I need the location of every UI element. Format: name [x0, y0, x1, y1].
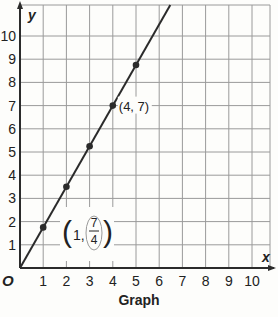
x-tick-label: 10 — [244, 273, 260, 289]
x-tick-label: 1 — [39, 273, 47, 289]
x-tick-label: 9 — [225, 273, 233, 289]
chart-title: Graph — [0, 292, 278, 308]
graph-plot: yxO1234567891012345678910 (4, 7)(1,74) — [0, 0, 278, 290]
y-tick-label: 7 — [8, 98, 16, 114]
axes — [17, 1, 276, 271]
x-axis-arrow-icon — [268, 265, 276, 271]
x-tick-label: 4 — [109, 273, 117, 289]
x-tick-label: 8 — [202, 273, 210, 289]
data-point — [40, 224, 47, 231]
grid-lines — [20, 5, 270, 268]
annotations: (4, 7)(1,74) — [60, 97, 152, 261]
data-point — [63, 184, 70, 191]
x-tick-label: 6 — [155, 273, 163, 289]
x-tick-label: 2 — [63, 273, 71, 289]
fraction-denominator: 4 — [91, 233, 98, 247]
left-paren: ( — [62, 215, 72, 248]
fraction-numerator: 7 — [91, 216, 98, 230]
x-axis-label: x — [261, 249, 271, 265]
data-point — [133, 62, 140, 69]
x-tick-label: 3 — [86, 273, 94, 289]
right-paren: ) — [103, 215, 113, 248]
x-tick-label: 7 — [179, 273, 187, 289]
y-tick-label: 1 — [8, 237, 16, 253]
y-tick-label: 9 — [8, 51, 16, 67]
origin-label: O — [2, 272, 14, 289]
y-tick-label: 2 — [8, 214, 16, 230]
y-tick-label: 4 — [8, 167, 16, 183]
y-tick-label: 8 — [8, 74, 16, 90]
y-axis-label: y — [27, 7, 37, 23]
y-tick-label: 3 — [8, 190, 16, 206]
y-tick-label: 10 — [0, 28, 16, 44]
annotation-point-4-7: (4, 7) — [119, 99, 149, 114]
data-point — [110, 102, 117, 109]
y-tick-label: 5 — [8, 144, 16, 160]
x-tick-label: 5 — [132, 273, 140, 289]
y-tick-label: 6 — [8, 121, 16, 137]
data-point — [86, 143, 93, 150]
annotation-x-value: 1, — [73, 227, 85, 243]
